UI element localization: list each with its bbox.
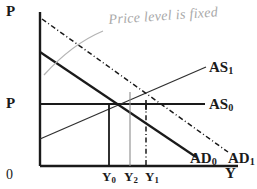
tick-label-y0-base: Y <box>102 169 111 184</box>
curve-label-as0: AS0 <box>209 97 233 112</box>
tick-label-y2-sub: 2 <box>133 175 137 185</box>
curve-label-ad0: AD0 <box>190 151 217 166</box>
diagram-canvas <box>0 0 257 189</box>
curve-label-ad1: AD1 <box>228 151 255 166</box>
tick-label-y2: Y2 <box>124 170 138 183</box>
curve-label-ad1-sub: 1 <box>250 156 255 167</box>
x-axis-label: Y <box>225 166 236 181</box>
curve-label-as1-sub: 1 <box>228 65 233 76</box>
curve-ad1 <box>42 19 228 152</box>
curve-as1 <box>40 67 206 139</box>
y-axis-label: P <box>6 4 15 19</box>
curve-label-as0-base: AS <box>209 96 228 112</box>
curve-label-ad1-base: AD <box>228 150 250 166</box>
tick-label-y1-base: Y <box>145 169 154 184</box>
curve-label-as1: AS1 <box>209 60 233 75</box>
tick-label-y1-sub: 1 <box>154 175 158 185</box>
price-level-label: P <box>6 96 15 111</box>
ad-as-diagram: P Y 0 P AS1 AS0 AD0 AD1 Y0 Y2 Y1 Price l… <box>0 0 257 189</box>
curve-label-ad0-base: AD <box>190 150 212 166</box>
tick-label-y0-sub: 0 <box>111 175 115 185</box>
origin-label: 0 <box>6 168 13 182</box>
curve-label-ad0-sub: 0 <box>212 156 217 167</box>
tick-label-y1: Y1 <box>145 170 159 183</box>
curve-label-as1-base: AS <box>209 59 228 75</box>
tick-label-y0: Y0 <box>102 170 116 183</box>
annotation-leader-line <box>44 31 103 75</box>
tick-label-y2-base: Y <box>124 169 133 184</box>
curve-label-as0-sub: 0 <box>228 102 233 113</box>
